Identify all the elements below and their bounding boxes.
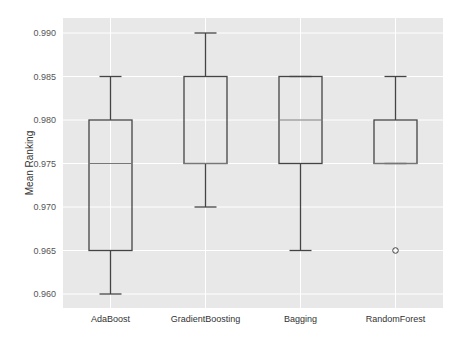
y-tick-label: 0.965 — [33, 246, 56, 256]
x-category-label: RandomForest — [366, 314, 426, 324]
x-category-label: AdaBoost — [91, 314, 131, 324]
y-tick-label: 0.985 — [33, 72, 56, 82]
y-tick-label: 0.975 — [33, 159, 56, 169]
y-tick-label: 0.970 — [33, 202, 56, 212]
x-axis-categories: AdaBoostGradientBoostingBaggingRandomFor… — [91, 314, 426, 324]
y-tick-label: 0.990 — [33, 28, 56, 38]
box-plot-chart: 0.9600.9650.9700.9750.9800.9850.990 Mean… — [0, 0, 461, 339]
y-axis-ticks: 0.9600.9650.9700.9750.9800.9850.990 — [33, 28, 56, 299]
x-category-label: GradientBoosting — [171, 314, 241, 324]
y-tick-label: 0.960 — [33, 289, 56, 299]
x-category-label: Bagging — [284, 314, 317, 324]
y-tick-label: 0.980 — [33, 115, 56, 125]
y-axis-label: Mean Ranking — [24, 131, 35, 195]
